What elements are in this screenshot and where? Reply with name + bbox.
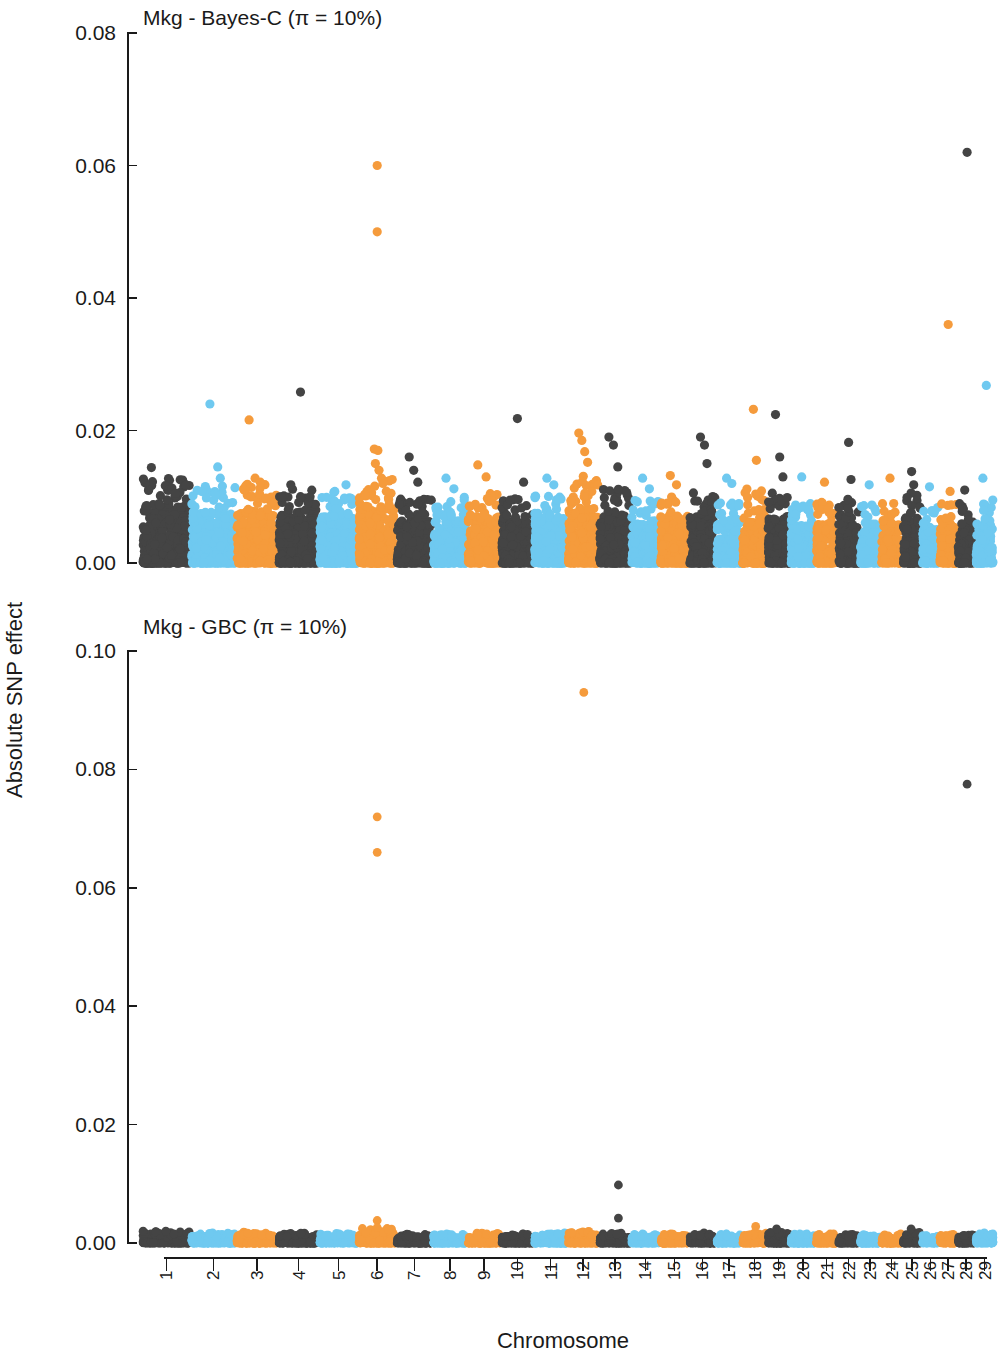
data-point [846,475,855,484]
data-point [613,462,622,471]
x-tick-label-chromosome: 24 [883,1261,902,1280]
x-tick-label-chromosome: 22 [840,1261,859,1280]
data-point [286,480,295,489]
data-point [907,1224,916,1233]
panel-title-gbc: Mkg - GBC (π = 10%) [143,615,347,638]
data-point [205,399,214,408]
data-point [473,460,482,469]
data-point [609,441,618,450]
x-axis-title: Chromosome [497,1328,629,1353]
panel-bayes-c: Mkg - Bayes-C (π = 10%) 0.000.020.040.06… [75,6,997,574]
data-point [256,478,265,487]
data-point [245,415,254,424]
panel-title-bayes-c: Mkg - Bayes-C (π = 10%) [143,6,382,29]
data-point [604,433,613,442]
data-point [749,405,758,414]
data-point [330,487,339,496]
y-axis-top: 0.000.020.040.060.08 [75,21,137,574]
data-point [216,474,225,483]
data-point [645,484,654,493]
y-tick-label: 0.04 [75,286,116,309]
data-point [171,489,180,498]
data-point [638,474,647,483]
data-point [580,447,589,456]
data-point [885,474,894,483]
x-axis-chromosome: 1234567891011121314151617181920212223242… [157,1258,994,1280]
data-point [577,436,586,445]
data-point [405,452,414,461]
data-point [978,474,987,483]
x-tick-label-chromosome: 29 [976,1261,995,1280]
data-point [378,479,387,488]
data-point [666,471,675,480]
data-point [963,148,972,157]
data-point [261,494,270,503]
plot-canvas: Absolute SNP effect Chromosome Mkg - Bay… [0,0,999,1357]
data-point [549,480,558,489]
x-tick-label-chromosome: 6 [368,1271,387,1280]
data-point [583,458,592,467]
data-point [700,441,709,450]
data-point [696,433,705,442]
data-point [513,414,522,423]
data-point [946,487,955,496]
data-point [519,478,528,487]
x-tick-label-chromosome: 10 [508,1261,527,1280]
data-point [373,161,382,170]
data-point [844,438,853,447]
x-tick-label-chromosome: 17 [720,1261,739,1280]
data-point [960,486,969,495]
y-tick-label: 0.00 [75,551,116,574]
data-point [907,467,916,476]
data-point [373,446,382,455]
data-point [944,320,953,329]
data-point [374,466,383,475]
x-tick-label-chromosome: 28 [957,1261,976,1280]
data-point [672,480,681,489]
data-point [982,381,991,390]
panel-gbc: Mkg - GBC (π = 10%) 0.000.020.040.060.08… [75,615,997,1280]
x-tick-label-chromosome: 26 [921,1261,940,1280]
manhattan-plot-figure: Absolute SNP effect Chromosome Mkg - Bay… [0,0,999,1357]
data-point [449,484,458,493]
x-tick-label-chromosome: 13 [606,1261,625,1280]
data-point [772,1224,781,1233]
y-tick-label: 0.02 [75,1113,116,1136]
x-tick-label-chromosome: 21 [818,1261,837,1280]
data-point [373,848,382,857]
data-point [373,227,382,236]
data-point [614,1214,623,1223]
data-point [213,462,222,471]
data-point [963,780,972,789]
y-tick-label: 0.10 [75,639,116,662]
x-tick-label-chromosome: 9 [475,1271,494,1280]
data-point [373,1223,382,1232]
x-tick-label-chromosome: 15 [665,1261,684,1280]
data-point [775,452,784,461]
y-tick-label: 0.00 [75,1231,116,1254]
y-tick-label: 0.04 [75,994,116,1017]
data-point [614,1181,623,1190]
data-point [373,812,382,821]
data-point [727,479,736,488]
x-tick-label-chromosome: 1 [157,1271,176,1280]
data-point [778,472,787,481]
x-tick-label-chromosome: 25 [903,1261,922,1280]
data-points-bottom [139,688,998,1247]
data-point [341,480,350,489]
data-point [751,1222,760,1231]
data-point [482,472,491,481]
y-axis-title: Absolute SNP effect [2,602,27,798]
y-tick-label: 0.02 [75,419,116,442]
x-tick-label-chromosome: 3 [248,1271,267,1280]
data-point [820,478,829,487]
data-point [409,466,418,475]
x-tick-label-chromosome: 23 [861,1261,880,1280]
x-tick-label-chromosome: 8 [441,1271,460,1280]
x-tick-label-chromosome: 7 [405,1271,424,1280]
x-tick-label-chromosome: 16 [693,1261,712,1280]
data-point [702,459,711,468]
x-tick-label-chromosome: 20 [794,1261,813,1280]
data-point [909,480,918,489]
x-tick-label-chromosome: 19 [770,1261,789,1280]
